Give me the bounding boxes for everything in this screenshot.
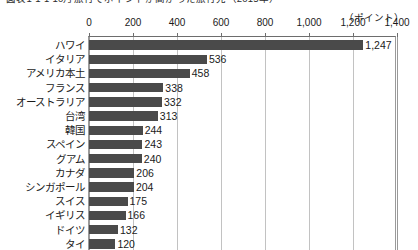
bar-row: タイ120 — [89, 237, 395, 250]
category-label: ドイツ — [55, 223, 85, 237]
bar — [89, 225, 118, 234]
bar-value-label: 1,247 — [365, 38, 391, 52]
bar — [89, 154, 142, 163]
category-label: イギリス — [45, 208, 85, 222]
chart-title: 図表1-1-1 10月旅行でポイントが高かった旅行先（2015年） — [6, 0, 279, 4]
bar-value-label: 332 — [164, 95, 182, 109]
category-label: 台湾 — [65, 109, 85, 123]
bar-value-label: 458 — [192, 66, 210, 80]
category-label: ハワイ — [55, 38, 85, 52]
bar — [89, 97, 162, 106]
bar — [89, 126, 143, 135]
bar-row: オーストラリア332 — [89, 95, 395, 109]
bar — [89, 182, 134, 191]
bar-row: グアム240 — [89, 152, 395, 166]
bar-value-label: 244 — [145, 123, 163, 137]
bar-value-label: 120 — [117, 237, 135, 250]
category-label: スイス — [55, 194, 85, 208]
bar-row: ドイツ132 — [89, 223, 395, 237]
axis-tick-label: 1,400 — [384, 17, 409, 29]
bar — [89, 239, 115, 248]
category-label: グアム — [56, 152, 85, 166]
axis-tick-mark — [353, 33, 354, 37]
bar — [89, 55, 207, 64]
category-label: アメリカ本土 — [26, 66, 85, 80]
bar — [89, 111, 158, 120]
category-label: オーストラリア — [16, 95, 85, 109]
axis-tick-label: 200 — [125, 17, 142, 29]
bar-row: スペイン243 — [89, 137, 395, 151]
bar-row: イギリス166 — [89, 208, 395, 222]
bar-row: ハワイ1,247 — [89, 38, 395, 52]
axis-tick-mark — [397, 33, 398, 37]
bar-row: 韓国244 — [89, 123, 395, 137]
plot-area: 02004006008001,0001,2001,400ハワイ1,247イタリア… — [88, 36, 396, 250]
axis-tick-label: 600 — [213, 17, 230, 29]
bar-value-label: 338 — [165, 81, 183, 95]
category-label: フランス — [45, 81, 85, 95]
axis-tick-label: 1,200 — [340, 17, 365, 29]
axis-tick-mark — [265, 33, 266, 37]
bar-value-label: 132 — [120, 223, 138, 237]
bar-value-label: 313 — [160, 109, 178, 123]
bar-row: シンガポール204 — [89, 180, 395, 194]
bar-row: カナダ206 — [89, 166, 395, 180]
bar — [89, 211, 126, 220]
bar — [89, 140, 142, 149]
axis-tick-label: 0 — [86, 17, 92, 29]
bar — [89, 197, 128, 206]
category-label: タイ — [65, 237, 85, 250]
bar-value-label: 166 — [128, 208, 146, 222]
category-label: シンガポール — [25, 180, 85, 194]
category-label: イタリア — [45, 52, 85, 66]
bar-row: スイス175 — [89, 194, 395, 208]
axis-tick-mark — [89, 33, 90, 37]
category-label: スペイン — [46, 137, 85, 151]
bar-row: フランス338 — [89, 81, 395, 95]
category-label: 韓国 — [65, 123, 85, 137]
axis-tick-label: 1,000 — [296, 17, 321, 29]
bar-row: イタリア536 — [89, 52, 395, 66]
gridline — [397, 37, 398, 250]
bar-value-label: 240 — [144, 152, 162, 166]
bar-value-label: 536 — [209, 52, 227, 66]
bar-value-label: 175 — [130, 194, 148, 208]
axis-tick-mark — [133, 33, 134, 37]
axis-tick-label: 400 — [169, 17, 186, 29]
bar — [89, 83, 163, 92]
axis-tick-label: 800 — [257, 17, 274, 29]
axis-tick-mark — [221, 33, 222, 37]
axis-tick-mark — [309, 33, 310, 37]
bar-value-label: 206 — [136, 166, 154, 180]
bar-value-label: 243 — [144, 137, 162, 151]
bar-value-label: 204 — [136, 180, 154, 194]
bar — [89, 168, 134, 177]
bar — [89, 69, 190, 78]
bar — [89, 40, 363, 49]
category-label: カナダ — [55, 166, 85, 180]
axis-tick-mark — [177, 33, 178, 37]
bar-row: 台湾313 — [89, 109, 395, 123]
bar-row: アメリカ本土458 — [89, 66, 395, 80]
